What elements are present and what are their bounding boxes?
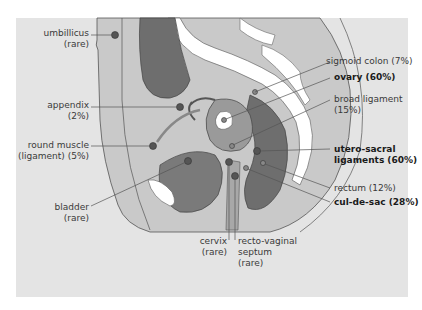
label-recto-vaginal-septum: recto-vaginal septum (rare): [238, 236, 297, 269]
label-round-muscle: round muscle (ligament) (5%): [18, 140, 89, 162]
label-cervix: cervix (rare): [200, 236, 227, 258]
label-bladder: bladder (rare): [55, 202, 89, 224]
label-sigmoid-colon: sigmoid colon (7%): [326, 56, 413, 67]
label-ovary: ovary (60%): [334, 72, 395, 83]
label-appendix: appendix (2%): [47, 100, 89, 122]
vagina: [226, 160, 240, 230]
label-umbilicus: umbillicus (rare): [43, 28, 89, 50]
label-rectum: rectum (12%): [334, 183, 396, 194]
label-cul-de-sac: cul-de-sac (28%): [334, 197, 419, 208]
label-broad-ligament: broad ligament (15%): [334, 94, 403, 116]
label-utero-sacral: utero-sacral ligaments (60%): [334, 144, 417, 166]
